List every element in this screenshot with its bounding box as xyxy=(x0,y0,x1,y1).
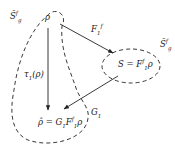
region-left-label: S̄fg xyxy=(10,12,21,21)
edge-F1f xyxy=(60,24,113,53)
edge-G1 xyxy=(64,76,118,109)
edge-label-tau1: τ1(ρ) xyxy=(24,70,44,79)
node-S: S = Ff1ρ xyxy=(118,60,153,69)
region-right-label: S̄fg xyxy=(160,40,171,49)
edge-label-F1f: F1f xyxy=(91,25,102,34)
edge-label-G1: G1 xyxy=(91,108,101,117)
node-rho-hat: ρ̂ = G1Ff1ρ xyxy=(38,118,82,127)
node-rho: ρ xyxy=(45,13,50,22)
